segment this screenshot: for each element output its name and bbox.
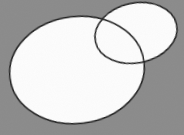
drawing-canvas [0,0,184,135]
grain-overlay [0,0,184,135]
two-ellipses-figure [0,0,184,135]
